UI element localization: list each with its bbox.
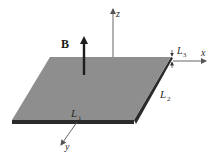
svg-text:2: 2 (167, 95, 171, 103)
axis-label-y: y (64, 141, 70, 152)
dimension-label-l2: L 2 (159, 88, 171, 103)
svg-text:L: L (176, 45, 183, 56)
axis-label-z: z (115, 8, 120, 19)
svg-text:3: 3 (183, 51, 186, 58)
field-label-b: B (61, 37, 69, 51)
axis-label-x: x (200, 47, 206, 58)
svg-text:1: 1 (78, 114, 82, 122)
plate (12, 57, 173, 124)
diagram-canvas: B z x y L 3 L 2 L 1 (0, 0, 219, 162)
plate-front-edge (12, 120, 134, 124)
svg-text:L: L (70, 107, 77, 119)
plate-top-surface (12, 57, 171, 120)
dimension-label-l3: L 3 (176, 45, 186, 58)
svg-text:L: L (159, 88, 166, 100)
